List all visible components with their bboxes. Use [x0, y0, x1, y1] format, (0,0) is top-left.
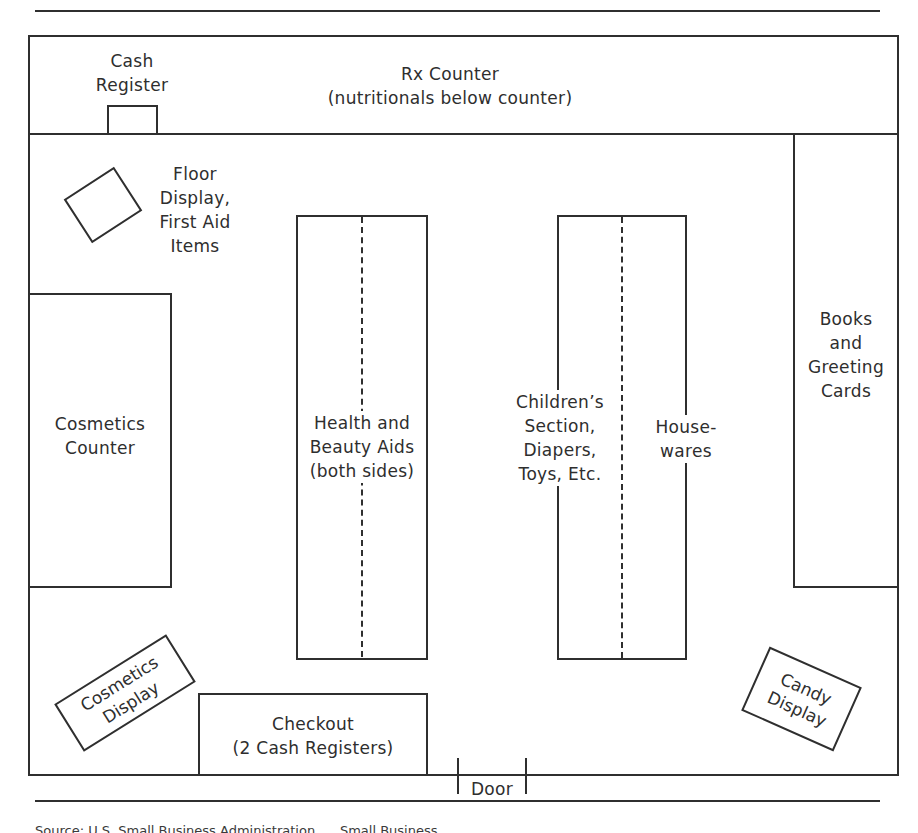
- door-jamb-right: [525, 758, 527, 794]
- cash-register-label: Cash Register: [92, 49, 172, 97]
- rx-counter-label: Rx Counter (nutritionals below counter): [300, 62, 600, 110]
- books-cards-label: Books and Greeting Cards: [795, 307, 897, 403]
- source-caption: Source: U.S. Small Business Administrati…: [35, 818, 895, 833]
- health-beauty-label: Health and Beauty Aids (both sides): [304, 411, 420, 483]
- childrens-section-label: Children’s Section, Diapers, Toys, Etc.: [504, 390, 616, 486]
- bottom-rule: [35, 800, 880, 802]
- housewares-label: House- wares: [651, 415, 721, 463]
- rx-counter-boundary: [28, 133, 898, 135]
- floor-display-label: Floor Display, First Aid Items: [145, 162, 245, 258]
- checkout-label: Checkout (2 Cash Registers): [200, 712, 426, 760]
- door-label: Door: [460, 777, 524, 801]
- childrens-housewares-divider: [621, 217, 623, 658]
- door-jamb-left: [457, 758, 459, 794]
- cosmetics-counter-label: Cosmetics Counter: [30, 412, 170, 460]
- door-threshold: [459, 774, 525, 776]
- top-rule: [35, 10, 880, 12]
- cash-register-box: [107, 105, 158, 135]
